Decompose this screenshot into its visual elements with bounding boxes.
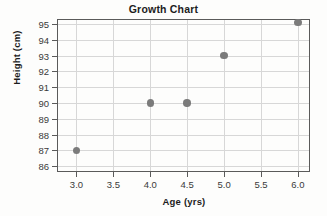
- y-tick-mark: [52, 119, 58, 120]
- y-tick-label: 94: [38, 34, 49, 45]
- gridline-horizontal: [58, 24, 309, 25]
- gridline-vertical: [224, 20, 225, 171]
- data-point: [73, 147, 81, 155]
- x-tick-label: 6.0: [291, 179, 304, 190]
- gridline-horizontal: [58, 56, 309, 57]
- x-tick-label: 3.0: [70, 179, 83, 190]
- y-tick-label: 95: [38, 18, 49, 29]
- data-point: [220, 52, 228, 60]
- y-tick-label: 92: [38, 66, 49, 77]
- gridline-horizontal: [58, 119, 309, 120]
- gridline-horizontal: [58, 135, 309, 136]
- plot-area: 86878889909192939495 3.03.54.04.55.05.56…: [57, 19, 310, 172]
- gridline-horizontal: [58, 150, 309, 151]
- x-axis-title: Age (yrs): [57, 196, 311, 207]
- y-tick-label: 91: [38, 82, 49, 93]
- gridline-horizontal: [58, 166, 309, 167]
- x-tick-mark: [298, 171, 299, 177]
- x-tick-label: 4.0: [144, 179, 157, 190]
- x-tick-mark: [224, 171, 225, 177]
- gridline-vertical: [298, 20, 299, 171]
- y-tick-label: 89: [38, 113, 49, 124]
- y-tick-mark: [52, 40, 58, 41]
- data-point: [294, 19, 302, 27]
- gridline-vertical: [187, 20, 188, 171]
- x-tick-label: 5.0: [217, 179, 230, 190]
- y-tick-label: 88: [38, 129, 49, 140]
- x-tick-label: 4.5: [181, 179, 194, 190]
- x-tick-mark: [261, 171, 262, 177]
- x-tick-mark: [76, 171, 77, 177]
- x-tick-label: 5.5: [254, 179, 267, 190]
- y-tick-mark: [52, 103, 58, 104]
- x-tick-mark: [150, 171, 151, 177]
- y-tick-mark: [52, 24, 58, 25]
- y-tick-mark: [52, 135, 58, 136]
- gridline-vertical: [113, 20, 114, 171]
- y-axis-title: Height (cm): [11, 0, 22, 118]
- x-tick-label: 3.5: [107, 179, 120, 190]
- data-point: [147, 99, 155, 107]
- y-tick-mark: [52, 87, 58, 88]
- x-tick-mark: [113, 171, 114, 177]
- y-tick-label: 93: [38, 50, 49, 61]
- gridline-horizontal: [58, 71, 309, 72]
- y-tick-label: 86: [38, 161, 49, 172]
- y-tick-label: 90: [38, 98, 49, 109]
- gridline-horizontal: [58, 40, 309, 41]
- y-tick-mark: [52, 71, 58, 72]
- gridline-horizontal: [58, 87, 309, 88]
- growth-chart-figure: Growth Chart Height (cm) 868788899091929…: [0, 0, 327, 216]
- y-tick-label: 87: [38, 145, 49, 156]
- gridline-vertical: [261, 20, 262, 171]
- gridline-vertical: [150, 20, 151, 171]
- y-tick-mark: [52, 166, 58, 167]
- chart-title: Growth Chart: [0, 3, 327, 15]
- data-point: [183, 99, 191, 107]
- y-tick-mark: [52, 56, 58, 57]
- x-tick-mark: [187, 171, 188, 177]
- y-tick-mark: [52, 150, 58, 151]
